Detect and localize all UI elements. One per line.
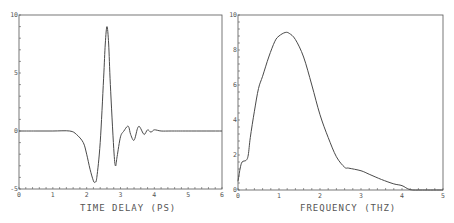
y-tick-label: 4 bbox=[233, 116, 237, 124]
x-tick-label: 4 bbox=[400, 192, 404, 200]
x-tick-label: 6 bbox=[220, 191, 224, 199]
x-tick-label: 3 bbox=[119, 191, 123, 199]
series-line-spectrum bbox=[238, 32, 443, 190]
plot-frame-1 bbox=[19, 15, 222, 189]
x-tick-label: 2 bbox=[85, 191, 89, 199]
y-tick-label: 8 bbox=[233, 46, 237, 54]
left-x-axis-title: TIME DELAY (PS) bbox=[80, 203, 176, 213]
right-x-axis-title: FREQUENCY (THZ) bbox=[300, 203, 396, 213]
y-tick-label: 2 bbox=[233, 151, 237, 159]
chart-canvas: 0123456-505100123450246810 bbox=[0, 0, 454, 223]
x-tick-label: 5 bbox=[441, 192, 445, 200]
x-tick-label: 4 bbox=[152, 191, 156, 199]
y-tick-label: -5 bbox=[10, 185, 18, 193]
y-tick-label: 5 bbox=[14, 69, 18, 77]
x-tick-label: 2 bbox=[318, 192, 322, 200]
series-line-waveform bbox=[19, 27, 222, 183]
y-tick-label: 6 bbox=[233, 81, 237, 89]
x-tick-label: 1 bbox=[51, 191, 55, 199]
x-tick-label: 5 bbox=[186, 191, 190, 199]
y-tick-label: 10 bbox=[229, 11, 237, 19]
x-tick-label: 3 bbox=[359, 192, 363, 200]
plot-frame-2 bbox=[238, 15, 443, 190]
x-tick-label: 1 bbox=[277, 192, 281, 200]
y-tick-label: 0 bbox=[233, 186, 237, 194]
y-tick-label: 10 bbox=[10, 11, 18, 19]
y-tick-label: 0 bbox=[14, 127, 18, 135]
